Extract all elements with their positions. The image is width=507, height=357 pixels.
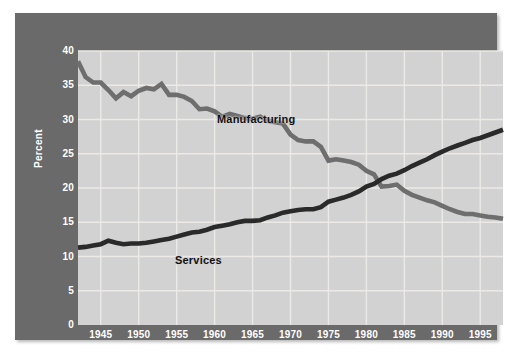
y-tick-label: 30	[30, 115, 74, 125]
y-axis-tick-labels: 0510152025303540	[28, 51, 74, 325]
series-line-manufacturing	[78, 61, 503, 219]
x-axis-tick-labels: 1945195019551960196519701975198019851990…	[78, 329, 503, 347]
y-tick-label: 20	[30, 183, 74, 193]
plot-area: Manufacturing Services	[78, 51, 503, 325]
y-tick-label: 25	[30, 149, 74, 159]
series-label-services: Services	[175, 254, 222, 266]
y-tick-label: 5	[30, 286, 74, 296]
chart-frame: Percent 0510152025303540 194519501955196…	[15, 13, 497, 340]
series-line-services	[78, 130, 503, 248]
chart-figure: Percent 0510152025303540 194519501955196…	[0, 0, 507, 357]
y-tick-label: 35	[30, 80, 74, 90]
y-tick-label: 15	[30, 217, 74, 227]
y-tick-label: 0	[30, 320, 74, 330]
y-tick-label: 10	[30, 252, 74, 262]
y-tick-label: 40	[30, 46, 74, 56]
series-lines	[78, 51, 503, 325]
x-tick-label: 1995	[458, 329, 502, 341]
series-label-manufacturing: Manufacturing	[217, 113, 295, 125]
